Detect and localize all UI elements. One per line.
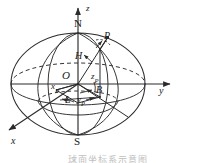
- segment-parallelogram-edge: [56, 84, 78, 90]
- coordinate-axes: [9, 8, 170, 135]
- point-h-label: H: [75, 51, 82, 61]
- x-p-label: xP: [51, 82, 59, 93]
- north-pole-label: N: [74, 18, 82, 29]
- x-p-sub: P: [55, 87, 59, 94]
- figure-caption: 球面坐标系示意图: [0, 153, 216, 163]
- longitude-label: L: [65, 95, 71, 105]
- y-p-sub: P: [81, 100, 85, 107]
- x-axis-line: [9, 84, 78, 130]
- z-p-base: z: [91, 71, 95, 81]
- origin-label: O: [62, 70, 70, 81]
- geometry-diagram-svg: [0, 0, 216, 163]
- z-axis-label: z: [86, 4, 90, 13]
- angle-arcs: [66, 40, 110, 102]
- arrow-to-h: [84, 55, 92, 62]
- marker-origin: [77, 83, 79, 85]
- point-markers: [77, 36, 109, 98]
- z-p-sub: P: [95, 77, 99, 84]
- point-b-label: B: [96, 85, 102, 95]
- point-p-label: P: [104, 31, 110, 41]
- y-p-label: yP: [77, 95, 85, 106]
- south-pole-label: S: [74, 136, 80, 147]
- marker-b: [99, 96, 101, 98]
- figure-root: z y x N S O P H B xP yP zP L 球面坐标系示意图: [0, 0, 216, 163]
- y-axis-label: y: [159, 86, 163, 96]
- x-axis-label: x: [11, 136, 15, 146]
- z-p-label: zP: [91, 72, 98, 83]
